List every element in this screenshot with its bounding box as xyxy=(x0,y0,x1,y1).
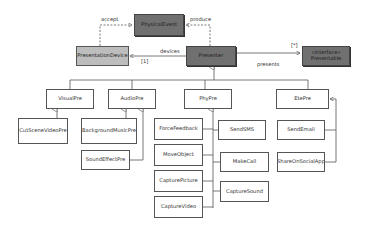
presents-multiplicity: [*] xyxy=(291,42,298,48)
accept-label: accept xyxy=(101,16,118,22)
class-name: PresentationDevice xyxy=(77,53,127,59)
class-capture-sound[interactable]: CaptureSound xyxy=(220,181,269,202)
devices-multiplicity: [1] xyxy=(141,58,148,64)
interface-presentable[interactable]: «interface» Presentable xyxy=(302,46,350,66)
class-name: EtePre xyxy=(294,96,311,102)
class-share-on-social-app[interactable]: ShareOnSocialApp xyxy=(277,152,325,172)
class-name: PhysicalEvent xyxy=(141,22,177,28)
class-name: ForceFeedback xyxy=(159,126,198,132)
class-ete-pre[interactable]: EtePre xyxy=(276,89,329,109)
class-force-feedback[interactable]: ForceFeedback xyxy=(154,118,203,140)
class-presentation-device[interactable]: PresentationDevice xyxy=(76,46,129,66)
class-capture-video[interactable]: CaptureVideo xyxy=(154,196,203,218)
class-audio-pre[interactable]: AudioPre xyxy=(108,89,156,109)
class-name: Presentable xyxy=(311,56,342,62)
class-move-object[interactable]: MoveObject xyxy=(154,144,203,166)
class-capture-picture[interactable]: CapturePicture xyxy=(154,170,203,192)
presents-label: presents xyxy=(257,61,279,67)
class-cut-scene-video-pre[interactable]: CutSceneVideoPre xyxy=(18,118,68,144)
class-name: MakeCall xyxy=(233,159,256,165)
uml-diagram: accept produce devices [1] presents [*] … xyxy=(0,0,368,228)
class-make-call[interactable]: MakeCall xyxy=(220,152,269,172)
class-send-email[interactable]: SendEmail xyxy=(277,120,325,140)
class-name: SendEmail xyxy=(287,127,314,133)
class-name: Presenter xyxy=(199,53,224,59)
class-name: PhyPre xyxy=(199,96,217,102)
connector-lines xyxy=(0,0,368,228)
produce-label: produce xyxy=(190,16,211,22)
class-name: ShareOnSocialApp xyxy=(277,159,325,165)
class-name: BackgroundMusicPre xyxy=(82,128,136,134)
class-name: CapturePicture xyxy=(159,178,197,184)
class-visual-pre[interactable]: VisualPre xyxy=(46,89,94,109)
class-name: SoundEffectPre xyxy=(86,157,126,163)
class-sound-effect-pre[interactable]: SoundEffectPre xyxy=(81,150,130,170)
class-presenter[interactable]: Presenter xyxy=(186,46,236,66)
class-name: VisualPre xyxy=(58,96,82,102)
class-send-sms[interactable]: SendSMS xyxy=(218,120,266,140)
class-physical-event[interactable]: PhysicalEvent xyxy=(134,14,184,36)
class-name: AudioPre xyxy=(121,96,144,102)
class-background-music-pre[interactable]: BackgroundMusicPre xyxy=(81,118,137,144)
class-name: MoveObject xyxy=(163,152,194,158)
class-phy-pre[interactable]: PhyPre xyxy=(184,89,232,109)
class-name: CaptureVideo xyxy=(161,204,196,210)
class-name: SendSMS xyxy=(230,127,254,133)
class-name: CaptureSound xyxy=(226,189,263,195)
class-name: CutSceneVideoPre xyxy=(19,128,67,134)
devices-label: devices xyxy=(160,48,180,54)
